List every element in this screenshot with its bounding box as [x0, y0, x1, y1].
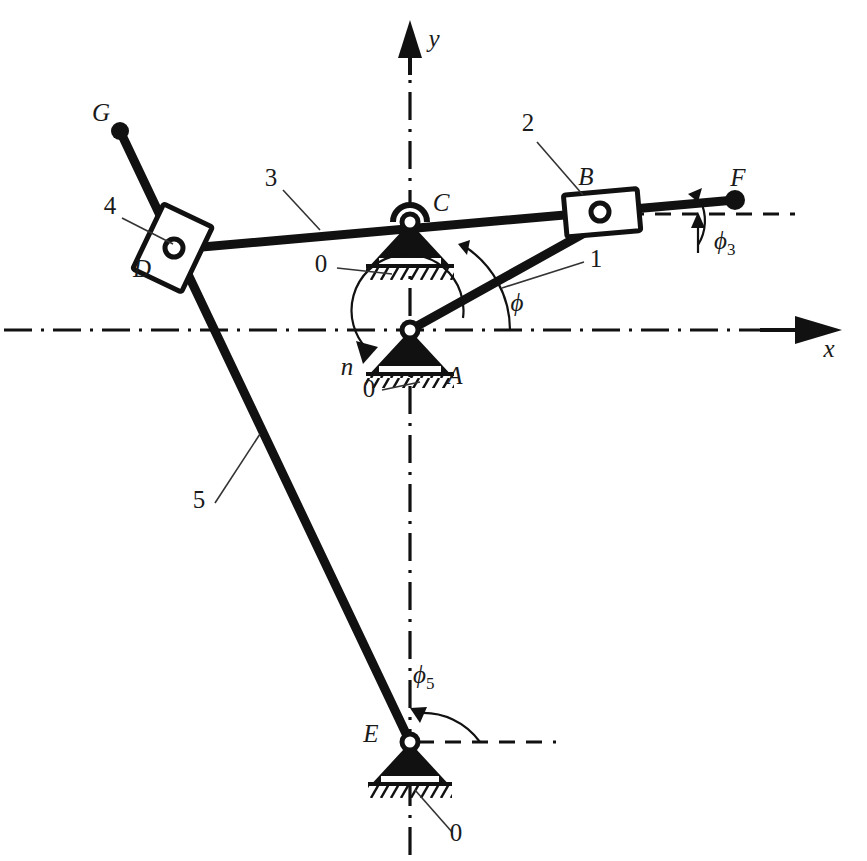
phi5-arc	[418, 713, 480, 742]
rotation-label-n: n	[341, 353, 354, 380]
angle-label-phi5: ϕ5	[413, 661, 434, 693]
pivot-C-ring	[402, 214, 418, 230]
link-3-body	[168, 200, 735, 250]
link-label-1: 1	[590, 245, 603, 272]
point-label-G: G	[92, 99, 110, 126]
angle-phi5-symbol: ϕ	[413, 661, 426, 688]
pivot-B	[591, 203, 609, 221]
link-label-5: 5	[193, 486, 206, 513]
link-label-4: 4	[104, 192, 117, 219]
leader-link-3	[283, 190, 320, 230]
point-label-C: C	[433, 189, 450, 216]
fixed-pivot-A	[366, 322, 454, 388]
angle-label-phi: ϕ	[511, 289, 524, 316]
point-G-dot	[111, 122, 129, 140]
ground-label-A: 0	[363, 375, 376, 402]
ground-label-C: 0	[315, 250, 328, 277]
angle-phi5-subscript: 5	[426, 674, 435, 693]
pivot-E-hatching	[368, 784, 452, 798]
link-label-3: 3	[265, 164, 278, 191]
link-label-2: 2	[522, 109, 535, 136]
ground-label-E: 0	[450, 819, 463, 846]
axis-label-y: y	[425, 25, 440, 52]
fixed-pivot-E	[368, 734, 452, 798]
point-label-E: E	[362, 720, 378, 747]
point-F-dot	[725, 190, 745, 210]
angle-phi3-symbol: ϕ	[714, 227, 727, 254]
angle-label-phi3: ϕ3	[714, 227, 735, 259]
phi5-angle-marker	[410, 707, 480, 742]
pivot-E-ring	[402, 734, 418, 750]
pivot-A-hatching	[366, 374, 454, 388]
phi-arrowhead	[458, 240, 470, 255]
fixed-pivot-C	[366, 205, 454, 280]
rotation-arrowhead-n	[356, 341, 378, 364]
leader-link-5	[215, 434, 260, 503]
y-axis-arrowhead	[398, 20, 422, 58]
axis-label-x: x	[822, 335, 834, 362]
phi3-angle-marker	[688, 188, 705, 253]
mechanism-svg: G D C B F A E y x 1 2 3 4 5 0 0 0 ϕ ϕ3 ϕ…	[0, 0, 867, 861]
link-3-DF	[168, 190, 745, 250]
angle-phi3-subscript: 3	[727, 240, 736, 259]
point-label-B: B	[578, 163, 593, 190]
pivot-A-ring	[402, 322, 418, 338]
point-label-F: F	[729, 164, 746, 191]
point-label-A: A	[445, 362, 463, 389]
point-label-D: D	[132, 255, 151, 282]
pivot-B-ring	[591, 203, 609, 221]
x-axis-arrowhead	[795, 316, 842, 344]
leader-link-2	[537, 142, 583, 195]
phi5-arrowhead	[410, 707, 427, 723]
mechanism-diagram: G D C B F A E y x 1 2 3 4 5 0 0 0 ϕ ϕ3 ϕ…	[0, 0, 867, 861]
